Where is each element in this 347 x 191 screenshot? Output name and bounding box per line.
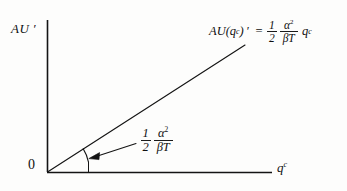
equation-ratio-denominator: βT [280, 31, 298, 44]
y-axis-label-text: AU [11, 21, 29, 36]
figure-canvas: AU ′ qc 0 AU(qc)′= 1 2 α2 βT qc 1 2 [0, 0, 347, 191]
line-equation-annotation: AU(qc)′= 1 2 α2 βT qc [209, 19, 312, 44]
equation-prime: ′ [244, 25, 253, 38]
equation-function-name: AU [209, 25, 226, 38]
annotation-leader-line [96, 144, 136, 157]
equation-equals-sign: = [252, 25, 265, 38]
equation-coefficient-fraction: 1 2 [267, 19, 277, 44]
slope-coefficient-numerator: 1 [141, 127, 151, 140]
slope-ratio-numerator-exponent: 2 [165, 125, 169, 134]
slope-ratio-fraction: α2 βT [154, 127, 173, 154]
annotation-arrowhead [89, 153, 100, 160]
angle-arc [83, 148, 89, 162]
x-axis-label: qc [277, 161, 287, 174]
x-axis-label-superscript: c [284, 160, 288, 169]
equation-row: AU(qc)′= 1 2 α2 βT qc [209, 19, 312, 44]
slope-annotation-row: 1 2 α2 βT [139, 127, 174, 154]
equation-variable-base: q [299, 25, 308, 38]
equation-ratio-fraction: α2 βT [280, 19, 298, 44]
origin-label: 0 [28, 158, 35, 172]
equation-ratio-numerator-exponent: 2 [290, 18, 293, 25]
equation-coefficient-denominator: 2 [267, 31, 277, 44]
slope-annotation: 1 2 α2 βT [139, 124, 174, 154]
slope-coefficient-denominator: 2 [141, 140, 151, 154]
slope-coefficient-fraction: 1 2 [141, 127, 151, 154]
slope-ratio-numerator: α2 [155, 127, 171, 140]
y-axis-label: AU ′ [11, 22, 37, 35]
y-axis-label-prime: ′ [29, 21, 36, 36]
slope-ratio-denominator: βT [154, 140, 173, 154]
equation-coefficient-numerator: 1 [267, 19, 277, 31]
equation-ratio-numerator: α2 [281, 19, 297, 31]
